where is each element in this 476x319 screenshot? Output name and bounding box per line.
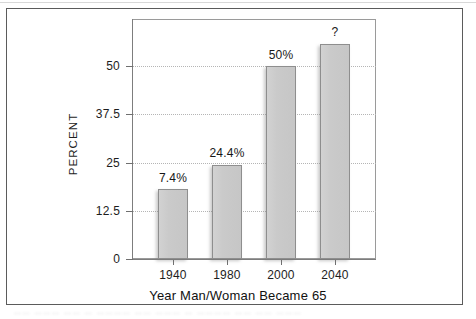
x-tick-mark-2040 [335, 260, 336, 265]
y-tick-label-12_5: 12.5 [76, 204, 120, 218]
y-tick-label-25: 25 [76, 156, 120, 170]
y-axis-title: PERCENT [67, 104, 79, 184]
x-tick-mark-1980 [227, 260, 228, 265]
y-tick-mark-50 [126, 66, 133, 67]
scan-text-artifact: —— ——— —— — ———— —— ——— — ———— —— —— ——— [14, 309, 462, 316]
x-tick-label-2040: 2040 [305, 268, 365, 282]
bar-label-1980: 24.4% [196, 146, 258, 160]
x-axis-title: Year Man/Woman Became 65 [0, 288, 476, 303]
figure-canvas: 0 12.5 25 37.5 50 7.4% 24.4% 50% ? 1940 … [0, 0, 476, 319]
y-tick-label-0: 0 [76, 252, 120, 266]
y-tick-mark-12_5 [126, 211, 133, 212]
y-tick-mark-0 [126, 259, 133, 260]
x-axis-spine [132, 259, 376, 260]
y-axis-spine [132, 19, 133, 260]
y-tick-mark-25 [126, 163, 133, 164]
bar-1980 [212, 165, 242, 259]
x-tick-label-2000: 2000 [251, 268, 311, 282]
bar-2040 [320, 44, 350, 259]
x-tick-label-1940: 1940 [143, 268, 203, 282]
y-tick-label-50: 50 [76, 59, 120, 73]
x-tick-mark-1940 [173, 260, 174, 265]
x-tick-label-1980: 1980 [197, 268, 257, 282]
bar-label-2040: ? [305, 25, 365, 39]
scan-top-rule [0, 2, 476, 3]
bar-label-2000: 50% [251, 48, 311, 62]
scan-text-artifact-line: —— ——— —— — ———— —— ——— — ———— —— —— ——— [14, 310, 462, 316]
y-tick-mark-37_5 [126, 114, 133, 115]
bar-1940 [158, 189, 188, 259]
x-tick-mark-2000 [281, 260, 282, 265]
y-tick-label-37_5: 37.5 [76, 107, 120, 121]
bar-2000 [266, 66, 296, 259]
bar-label-1940: 7.4% [143, 171, 203, 185]
